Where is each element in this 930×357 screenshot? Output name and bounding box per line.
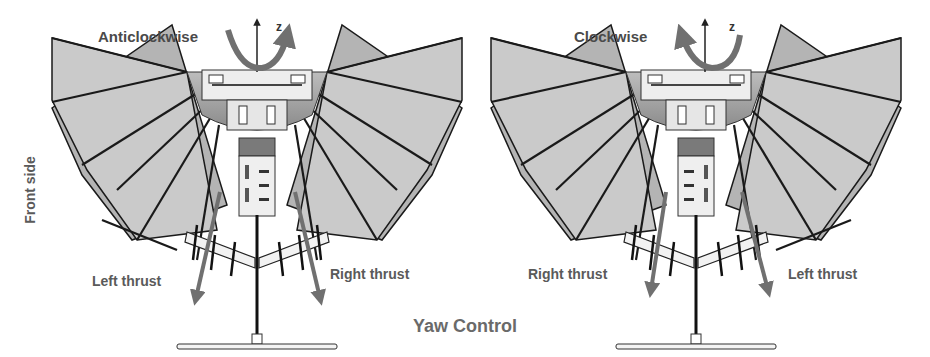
clockwise-arrow-icon xyxy=(682,35,740,68)
z-axis-label-left: z xyxy=(276,20,282,34)
left-thrust-label-2: Left thrust xyxy=(788,266,857,282)
right-flapper-model xyxy=(491,25,901,349)
front-side-label: Front side xyxy=(22,145,38,235)
left-thrust-label: Left thrust xyxy=(92,273,161,289)
clockwise-label: Clockwise xyxy=(574,28,647,45)
right-thrust-label: Right thrust xyxy=(330,266,409,282)
z-axis-label-right: z xyxy=(729,20,735,34)
right-thrust-label-2: Right thrust xyxy=(528,266,607,282)
figure-caption: Yaw Control xyxy=(0,316,930,337)
left-flapper-model xyxy=(52,25,462,349)
diagram-canvas xyxy=(0,0,930,357)
yaw-control-figure: Anticlockwise z Clockwise z Front side L… xyxy=(0,0,930,357)
anticlockwise-label: Anticlockwise xyxy=(98,28,198,45)
